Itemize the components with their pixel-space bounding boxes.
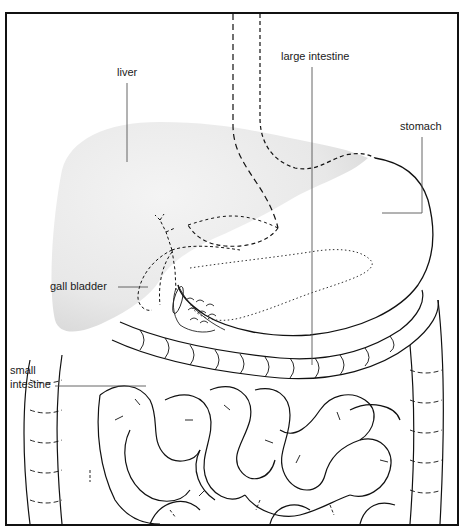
- small-intestine-shape: [90, 386, 400, 524]
- label-large-intestine: large intestine: [281, 50, 350, 63]
- label-small-intestine-line1: small: [10, 364, 36, 377]
- liver-shape: [51, 122, 368, 332]
- label-stomach: stomach: [400, 120, 442, 133]
- duodenum: [171, 285, 225, 332]
- digestive-system-illustration: [0, 0, 462, 532]
- pancreas-shape: [190, 250, 372, 321]
- label-small-intestine-line2: intestine: [10, 378, 51, 391]
- label-gall-bladder: gall bladder: [50, 280, 107, 293]
- label-liver: liver: [117, 66, 137, 79]
- stomach-leader-line: [382, 137, 422, 213]
